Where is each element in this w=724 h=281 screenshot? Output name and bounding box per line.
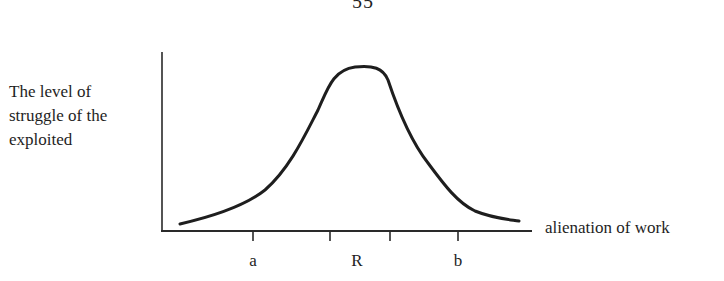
struggle-curve [180, 66, 519, 224]
x-tick-label-r: R [351, 251, 362, 271]
chart-canvas [0, 0, 724, 281]
x-tick-label-a: a [249, 251, 257, 271]
x-tick-label-b: b [454, 251, 463, 271]
x-axis-label: alienation of work [545, 218, 670, 238]
x-axis-ticks [253, 231, 458, 241]
